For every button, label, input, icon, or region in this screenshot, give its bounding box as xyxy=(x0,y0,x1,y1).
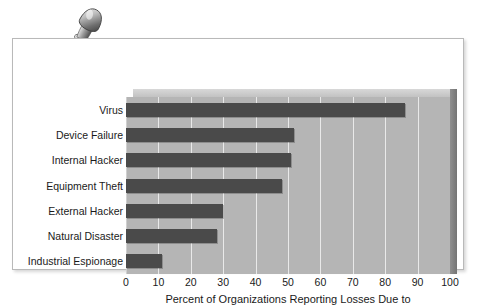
plot-top-bevel xyxy=(133,89,457,97)
bar-row[interactable] xyxy=(126,174,450,198)
value-axis-tick-label: 40 xyxy=(250,276,262,288)
plot-right-bevel xyxy=(450,89,457,274)
bar[interactable] xyxy=(126,204,223,218)
category-label: Natural Disaster xyxy=(13,230,123,242)
value-axis-tick-label: 20 xyxy=(185,276,197,288)
category-label: External Hacker xyxy=(13,205,123,217)
value-axis-title: Percent of Organizations Reporting Losse… xyxy=(126,293,450,305)
category-label: Device Failure xyxy=(13,129,123,141)
value-axis-tick-label: 30 xyxy=(217,276,229,288)
bar[interactable] xyxy=(126,103,405,117)
category-label: Virus xyxy=(13,104,123,116)
value-axis-ticks: 0102030405060708090100 xyxy=(126,276,450,290)
bar-row[interactable] xyxy=(126,123,450,147)
bar-row[interactable] xyxy=(126,250,450,274)
value-axis-tick-label: 50 xyxy=(282,276,294,288)
chart-figure-frame: VirusDevice FailureInternal HackerEquipm… xyxy=(12,38,464,270)
bar-row[interactable] xyxy=(126,224,450,248)
value-axis-tick-label: 10 xyxy=(153,276,165,288)
category-label: Internal Hacker xyxy=(13,154,123,166)
value-axis-tick-label: 90 xyxy=(412,276,424,288)
category-label: Equipment Theft xyxy=(13,180,123,192)
bar[interactable] xyxy=(126,229,217,243)
plot-area xyxy=(126,89,457,274)
category-axis-labels: VirusDevice FailureInternal HackerEquipm… xyxy=(13,97,123,274)
value-axis-tick-label: 70 xyxy=(347,276,359,288)
bar-row[interactable] xyxy=(126,98,450,122)
value-axis-tick-label: 0 xyxy=(123,276,129,288)
category-label: Industrial Espionage xyxy=(13,255,123,267)
bar[interactable] xyxy=(126,153,291,167)
bar-row[interactable] xyxy=(126,199,450,223)
value-axis-tick-label: 80 xyxy=(379,276,391,288)
bar-row[interactable] xyxy=(126,148,450,172)
value-axis-tick-label: 60 xyxy=(315,276,327,288)
plot-surface xyxy=(126,97,450,274)
bar[interactable] xyxy=(126,254,162,268)
value-axis-tick-label: 100 xyxy=(441,276,459,288)
bar[interactable] xyxy=(126,128,294,142)
bar[interactable] xyxy=(126,179,282,193)
